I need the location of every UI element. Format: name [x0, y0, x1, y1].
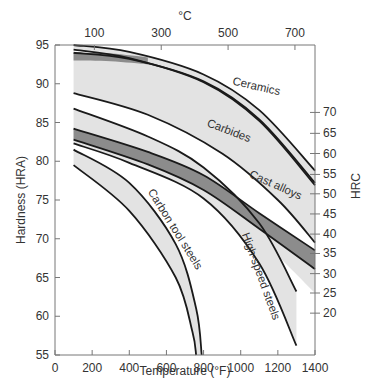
y2-tick-label: 55 — [323, 167, 337, 181]
y2-tick-label: 45 — [323, 207, 337, 221]
y2-tick-label: 65 — [323, 126, 337, 140]
x-tick-label: 200 — [82, 361, 102, 375]
y2-tick-label: 40 — [323, 227, 337, 241]
y2-tick-label: 20 — [323, 306, 337, 320]
y-axis-label: Hardness (HRA) — [14, 156, 28, 244]
x-tick-label: 1000 — [227, 361, 254, 375]
x-tick-label: 400 — [119, 361, 139, 375]
y2-tick-label: 70 — [323, 105, 337, 119]
x2-tick-label: 300 — [151, 26, 171, 40]
y2-tick-label: 25 — [323, 286, 337, 300]
y-tick-label: 70 — [36, 232, 50, 246]
x2-tick-label: 100 — [84, 26, 104, 40]
y-tick-label: 75 — [36, 193, 50, 207]
x-tick-label: 1400 — [302, 361, 329, 375]
x-axis-label: Temperature (°F) — [140, 364, 231, 378]
y-tick-label: 85 — [36, 116, 50, 130]
x-tick-label: 1200 — [265, 361, 292, 375]
y2-axis-label: HRC — [349, 173, 363, 199]
y-tick-label: 95 — [36, 38, 50, 52]
y-tick-label: 55 — [36, 348, 50, 362]
y2-tick-label: 35 — [323, 246, 337, 260]
y2-tick-label: 30 — [323, 267, 337, 281]
y-tick-label: 90 — [36, 77, 50, 91]
hardness-temperature-chart: 0200400600800100012001400556065707580859… — [0, 0, 368, 378]
x2-axis-label: °C — [178, 9, 192, 23]
y2-tick-label: 50 — [323, 187, 337, 201]
y2-tick-label: 60 — [323, 147, 337, 161]
x-tick-label: 0 — [52, 361, 59, 375]
y-tick-label: 65 — [36, 271, 50, 285]
y-tick-label: 60 — [36, 309, 50, 323]
x2-tick-label: 500 — [218, 26, 238, 40]
x2-tick-label: 700 — [285, 26, 305, 40]
y-tick-label: 80 — [36, 154, 50, 168]
